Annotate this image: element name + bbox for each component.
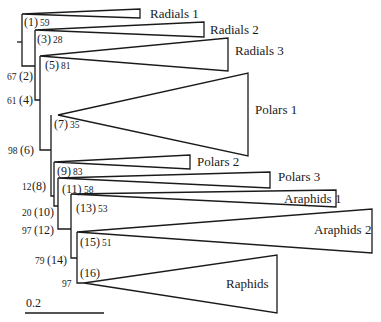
node-id-5: (5): [45, 58, 59, 72]
clade-label-radials-2: Radials 2: [210, 22, 259, 37]
node-id-2: (2): [19, 69, 33, 83]
clade-label-polars-2: Polars 2: [197, 154, 239, 169]
node-id-12: (12): [34, 223, 54, 237]
node-id-4: (4): [19, 93, 33, 107]
node-support-12: 97: [22, 226, 32, 236]
node-support-9: 83: [73, 167, 83, 177]
phylogenetic-tree: Radials 1 Radials 2 Radials 3 Polars 1 P…: [0, 0, 381, 322]
node-support-1: 59: [40, 18, 50, 28]
node-id-1: (1): [24, 15, 38, 29]
node-support-11: 58: [84, 185, 94, 195]
node-support-14: 79: [35, 256, 45, 266]
node-id-16: (16): [80, 266, 100, 280]
node-id-13: (13): [76, 201, 96, 215]
node-id-3: (3): [37, 32, 51, 46]
clade-triangle-polars-1: [58, 73, 248, 156]
clade-label-radials-3: Radials 3: [235, 43, 284, 58]
clade-label-polars-3: Polars 3: [278, 169, 320, 184]
node-support-5: 81: [61, 61, 71, 71]
node-support-13: 53: [98, 204, 108, 214]
node-id-6: (6): [20, 143, 34, 157]
clade-label-radials-1: Radials 1: [150, 6, 199, 21]
node-support-8: 12: [22, 182, 32, 192]
clade-label-araphids-2: Araphids 2: [314, 222, 371, 237]
scale-bar: 0.2: [25, 296, 104, 313]
node-id-9: (9): [57, 164, 71, 178]
node-id-10: (10): [34, 205, 54, 219]
node-id-15: (15): [80, 235, 100, 249]
node-id-8: (8): [32, 179, 46, 193]
scale-bar-label: 0.2: [26, 296, 41, 310]
node-id-7: (7): [54, 117, 68, 131]
node-support-15: 51: [102, 238, 112, 248]
node-support-3: 28: [53, 35, 63, 45]
clade-triangle-radials-1: [22, 9, 140, 18]
clade-label-raphids: Raphids: [226, 276, 269, 291]
node-support-2: 67: [7, 72, 17, 82]
node-support-16: 97: [62, 279, 72, 289]
node-support-7: 35: [70, 120, 80, 130]
node-support-10: 20: [22, 208, 32, 218]
clade-label-araphids-1: Araphids 1: [284, 191, 341, 206]
node-id-14: (14): [47, 253, 67, 267]
node-id-11: (11): [62, 182, 82, 196]
clade-label-polars-1: Polars 1: [255, 102, 297, 117]
node-support-4: 61: [7, 96, 17, 106]
node-support-6: 98: [8, 146, 18, 156]
